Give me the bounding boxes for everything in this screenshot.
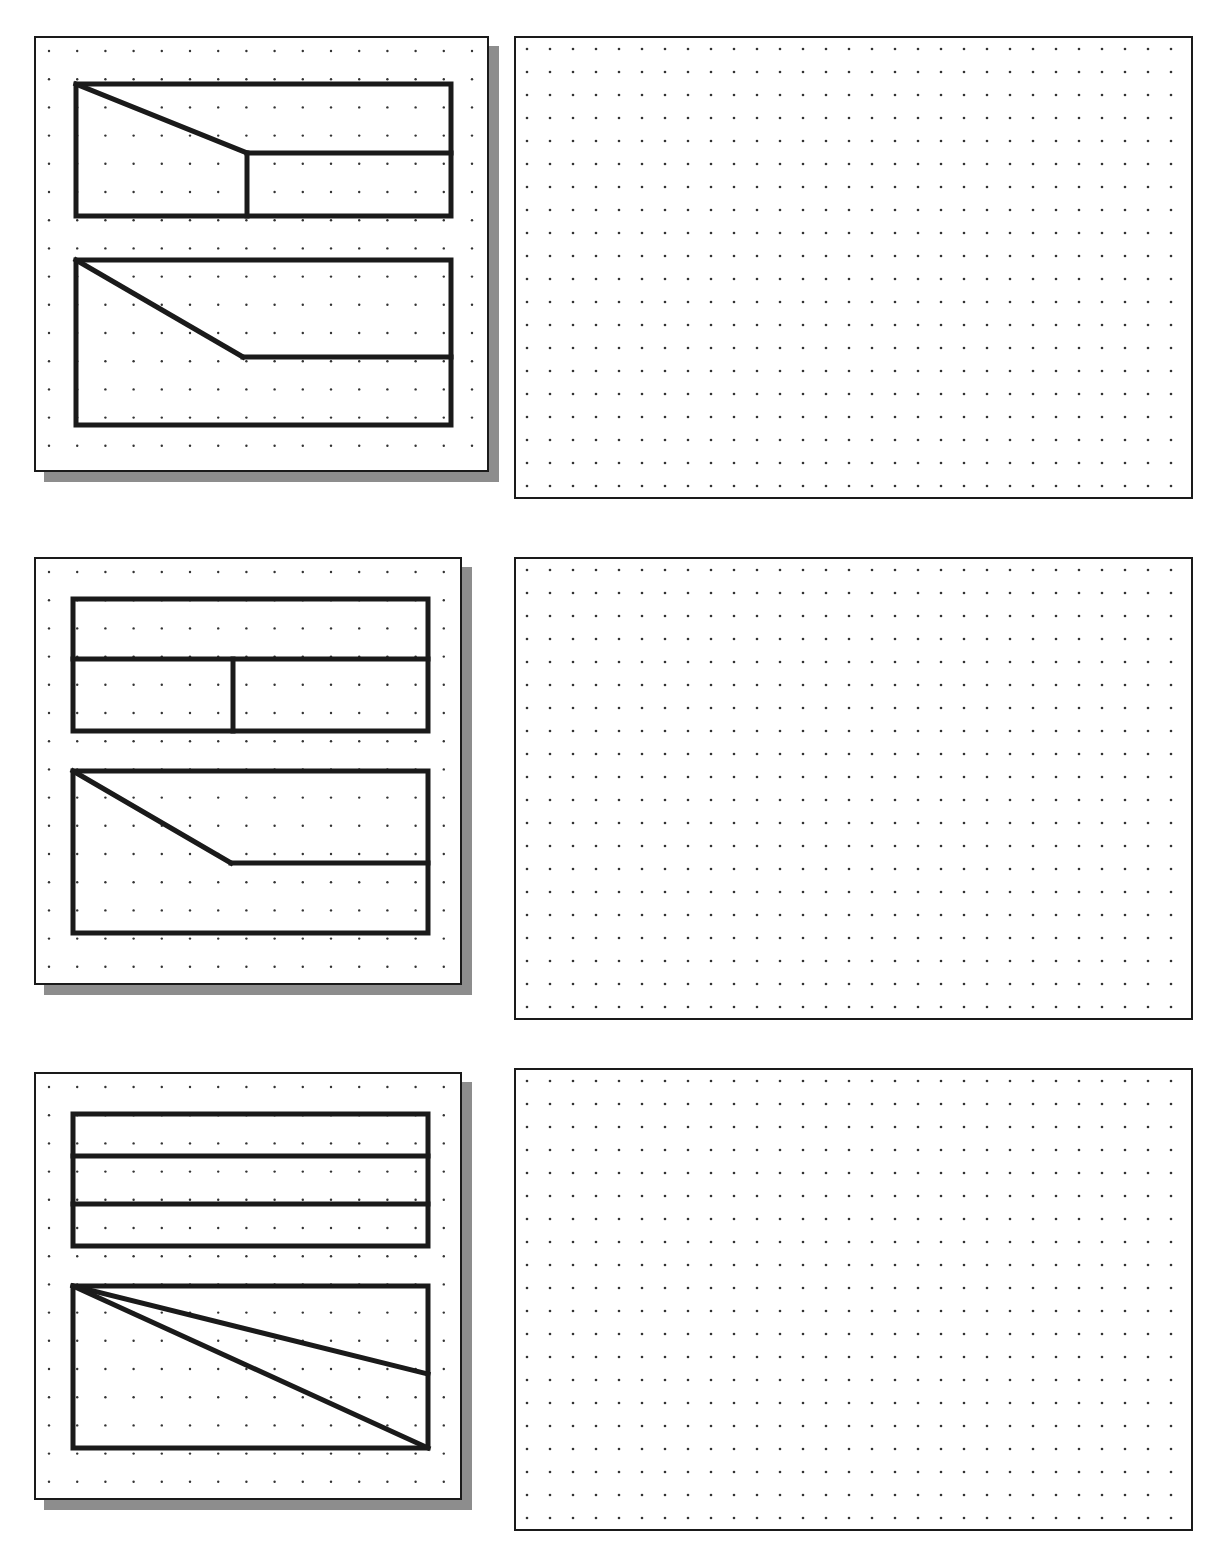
- top-view-outline: [76, 84, 451, 216]
- front-view-diagonal-to-right-edge: [73, 1286, 428, 1374]
- top-view: [69, 595, 432, 735]
- problem-2-card: [34, 557, 462, 985]
- clipped-header-text: [0, 0, 1213, 14]
- problem-1-answer-dot-grid: [516, 38, 1193, 499]
- problem-3-answer-dot-grid: [516, 1070, 1193, 1531]
- front-view-outline: [73, 771, 428, 933]
- problem-2-answer-dot-grid: [516, 559, 1193, 1020]
- front-view-diagonal-cut: [73, 771, 231, 863]
- front-view-outline: [76, 260, 451, 425]
- problem-1-answer-grid-panel[interactable]: [514, 36, 1193, 499]
- top-view-outline: [73, 1114, 428, 1246]
- top-view: [72, 80, 455, 220]
- problem-3-card: [34, 1072, 462, 1500]
- top-view-outline: [73, 599, 428, 731]
- front-view: [72, 256, 455, 429]
- front-view: [69, 1282, 432, 1452]
- front-view-diagonal-cut: [76, 260, 243, 357]
- problem-3-answer-grid-panel[interactable]: [514, 1068, 1193, 1531]
- top-view-diagonal-cut: [76, 84, 247, 153]
- front-view-diagonal-to-bottom-right: [73, 1286, 428, 1448]
- problem-1-card: [34, 36, 489, 472]
- front-view: [69, 767, 432, 937]
- worksheet-sheet: [0, 0, 1213, 1551]
- problem-2-answer-grid-panel[interactable]: [514, 557, 1193, 1020]
- top-view: [69, 1110, 432, 1250]
